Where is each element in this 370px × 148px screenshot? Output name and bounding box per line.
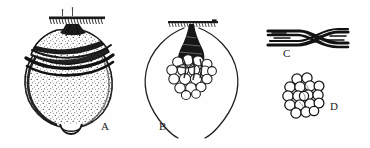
panel-label-d: D: [330, 100, 338, 112]
panel-label-b: B: [159, 120, 167, 132]
plate-drawing: [0, 0, 370, 148]
base-papilla-a: [60, 124, 82, 134]
tick-marks-a: [63, 9, 73, 17]
illustration-plate: A B C D: [0, 0, 370, 148]
panel-label-a: A: [101, 120, 109, 132]
cell-cluster-b: [167, 55, 217, 100]
panel-d: [283, 73, 324, 118]
panel-label-c: C: [283, 47, 291, 59]
panel-a: [25, 7, 113, 134]
substrate-bar-a: [49, 7, 105, 24]
panel-c: [268, 29, 348, 47]
